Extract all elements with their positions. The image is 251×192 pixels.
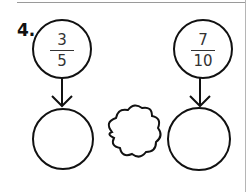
comparison-cloud — [109, 105, 161, 156]
numerator-right: 7 — [183, 32, 223, 48]
denominator-right: 10 — [183, 53, 223, 69]
fraction-bar-left — [50, 50, 74, 51]
denominator-left: 5 — [42, 53, 82, 69]
answer-circle-right — [168, 108, 230, 170]
numerator-left: 3 — [42, 32, 82, 48]
fraction-right: 7 10 — [183, 32, 223, 69]
fraction-bar-right — [191, 50, 215, 51]
answer-circle-left — [33, 109, 93, 169]
worksheet-drawing — [0, 0, 251, 192]
fraction-left: 3 5 — [42, 32, 82, 69]
